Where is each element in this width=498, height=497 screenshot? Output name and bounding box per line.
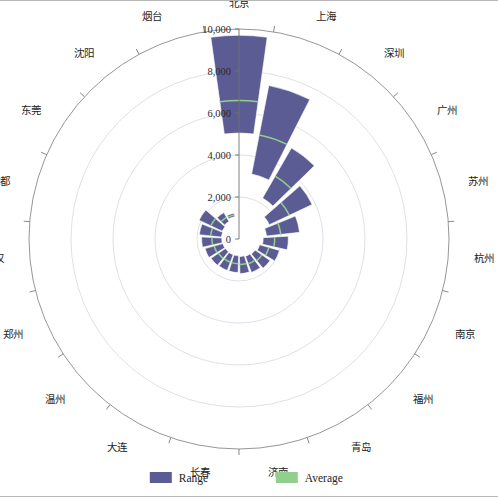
spoke-tick <box>394 93 398 97</box>
category-label-上海: 上海 <box>316 10 337 22</box>
chart-legend: RangeAverage <box>0 462 498 497</box>
category-label-深圳: 深圳 <box>384 47 404 59</box>
category-label-青岛: 青岛 <box>351 441 371 453</box>
spoke-tick <box>431 152 436 154</box>
radial-tick-label-6000: 6,000 <box>207 108 231 119</box>
spoke-tick <box>41 152 46 154</box>
spoke-tick <box>30 291 36 292</box>
legend-swatch-average[interactable] <box>276 472 298 483</box>
spoke-tick <box>368 405 372 410</box>
category-label-杭州: 杭州 <box>474 252 494 264</box>
radial-tick-label-2000: 2,000 <box>207 192 231 203</box>
category-label-沈阳: 沈阳 <box>74 47 94 59</box>
spoke-tick <box>443 291 449 292</box>
average-arc-杭州[interactable] <box>274 237 275 247</box>
category-label-福州: 福州 <box>413 393 433 405</box>
radial-tick-label-10000: 10,000 <box>202 24 231 35</box>
radial-tick-label-0: 0 <box>226 234 231 245</box>
polar-bar-chart: 02,0004,0006,0008,00010,000 北京上海深圳广州苏州杭州… <box>0 1 498 497</box>
category-label-郑州: 郑州 <box>3 328 23 340</box>
spoke-tick <box>169 438 171 444</box>
spoke-tick <box>274 26 275 32</box>
spoke-tick <box>106 405 110 410</box>
legend-label-range[interactable]: Range <box>179 472 208 485</box>
category-label-苏州: 苏州 <box>468 175 488 187</box>
category-label-广州: 广州 <box>437 104 457 116</box>
category-label-武汉: 武汉 <box>0 252 5 264</box>
legend-swatch-range[interactable] <box>150 472 172 483</box>
spoke-tick <box>136 49 139 54</box>
spoke-tick <box>339 49 342 54</box>
category-label-大连: 大连 <box>107 441 128 453</box>
category-label-温州: 温州 <box>45 393 65 405</box>
category-label-北京: 北京 <box>229 1 249 9</box>
category-label-烟台: 烟台 <box>142 10 162 22</box>
spoke-tick <box>415 354 420 357</box>
category-label-南京: 南京 <box>455 328 475 340</box>
category-label-成都: 成都 <box>0 175 11 187</box>
chart-page: 02,0004,0006,0008,00010,000 北京上海深圳广州苏州杭州… <box>0 0 498 497</box>
radial-tick-label-8000: 8,000 <box>207 66 231 77</box>
spoke-tick <box>80 93 84 97</box>
spoke-tick <box>58 354 63 357</box>
spoke-tick <box>307 438 309 444</box>
legend-label-average[interactable]: Average <box>305 472 343 485</box>
radial-tick-label-4000: 4,000 <box>207 150 231 161</box>
category-label-东莞: 东莞 <box>21 104 41 116</box>
average-arc-武汉[interactable] <box>212 237 213 244</box>
